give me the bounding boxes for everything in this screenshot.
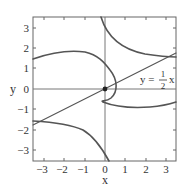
svg-text:1: 1 — [122, 163, 128, 175]
svg-text:−3: −3 — [17, 144, 29, 156]
svg-text:−1: −1 — [17, 103, 29, 115]
curve-lower-left-branch — [33, 121, 109, 161]
origin-point — [103, 87, 108, 92]
svg-text:3: 3 — [163, 163, 169, 175]
svg-text:x: x — [169, 73, 175, 85]
svg-text:1: 1 — [24, 62, 30, 74]
svg-text:y =: y = — [140, 73, 154, 85]
svg-text:−2: −2 — [56, 163, 68, 175]
svg-text:2: 2 — [24, 42, 30, 54]
curve-upper-right-branch — [101, 17, 176, 57]
svg-text:3: 3 — [24, 22, 30, 34]
svg-text:−2: −2 — [17, 124, 29, 136]
x-axis-label: x — [102, 173, 108, 184]
svg-text:−3: −3 — [36, 163, 48, 175]
y-axis-label: y — [10, 82, 16, 96]
line-annotation: y = 1 2 x — [140, 69, 175, 91]
svg-text:0: 0 — [24, 83, 30, 95]
svg-text:1: 1 — [161, 69, 166, 79]
svg-text:2: 2 — [143, 163, 149, 175]
chart: 3 2 1 0 −1 −2 −3 −3 −2 −1 0 1 2 3 x y y … — [0, 0, 187, 184]
svg-text:2: 2 — [161, 81, 166, 91]
svg-text:−1: −1 — [77, 163, 89, 175]
y-tick-labels: 3 2 1 0 −1 −2 −3 — [17, 22, 29, 156]
